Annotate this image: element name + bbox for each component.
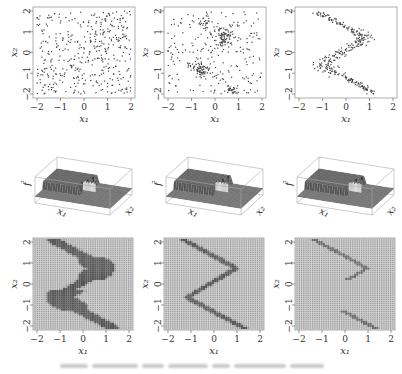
f-hat-axis-label: f̂ xyxy=(21,180,32,187)
x1-axis-label: x₁ xyxy=(187,205,200,219)
grid-heatmap-plot: −2−1012−2−1012x₁x₂ xyxy=(8,238,133,356)
scatter-panel-1: −2−1012−2−1012x₁x₂ xyxy=(0,0,140,125)
y-tick-label: 0 xyxy=(153,281,163,287)
y-tick-label: −1 xyxy=(22,298,32,311)
x-tick-label: −1 xyxy=(316,102,329,112)
surface-plot: x₁x₂f̂ xyxy=(152,157,267,219)
grid-panel-3: −2−1012−2−1012x₁x₂ xyxy=(262,232,402,360)
scatter-panel-3: −2−1012−2−1012x₁x₂ xyxy=(262,0,402,125)
y-tick-label: −2 xyxy=(284,87,294,100)
x-tick-label: 1 xyxy=(365,334,371,344)
y-tick-label: 2 xyxy=(22,239,32,245)
x1-axis-label: x₁ xyxy=(318,205,331,219)
y-tick-label: −2 xyxy=(153,87,163,100)
y-tick-label: 0 xyxy=(153,49,163,55)
y-axis-label: x₂ xyxy=(139,48,150,58)
y-tick-label: 1 xyxy=(22,29,32,35)
y-axis-label: x₂ xyxy=(8,48,19,58)
x-tick-label: 0 xyxy=(212,102,218,112)
y-tick-label: 2 xyxy=(153,239,163,245)
scatter-plot: −2−1012−2−1012x₁x₂ xyxy=(8,7,135,124)
y-tick-label: 0 xyxy=(22,281,32,287)
x2-axis-label: x₂ xyxy=(384,203,399,217)
x-tick-label: −1 xyxy=(54,102,67,112)
scatter-plot: −2−1012−2−1012x₁x₂ xyxy=(139,7,266,124)
y-tick-label: 2 xyxy=(22,8,32,14)
x-tick-label: 0 xyxy=(80,334,86,344)
x-tick-label: 1 xyxy=(234,334,240,344)
scatter-plot: −2−1012−2−1012x₁x₂ xyxy=(270,7,397,124)
f-hat-axis-label: f̂ xyxy=(152,180,163,187)
y-axis-label: x₂ xyxy=(270,279,281,289)
surface-panel-1: x₁x₂f̂ xyxy=(0,125,140,235)
y-tick-label: 2 xyxy=(284,8,294,14)
x-tick-label: −2 xyxy=(161,102,174,112)
x-axis-label: x₁ xyxy=(79,113,89,124)
y-tick-label: −1 xyxy=(153,67,163,80)
y-tick-label: 1 xyxy=(153,29,163,35)
surface-panel-3: x₁x₂f̂ xyxy=(262,125,402,235)
y-tick-label: −2 xyxy=(22,87,32,100)
x-tick-label: −2 xyxy=(161,334,174,344)
y-tick-label: 2 xyxy=(153,8,163,14)
y-tick-label: 0 xyxy=(284,49,294,55)
x-tick-label: 0 xyxy=(343,102,349,112)
x-tick-label: −1 xyxy=(184,334,197,344)
y-tick-label: −2 xyxy=(153,319,163,332)
y-tick-label: −2 xyxy=(22,319,32,332)
plot-frame xyxy=(164,7,266,98)
surface-plot: x₁x₂f̂ xyxy=(21,157,136,219)
surface-panel-2: x₁x₂f̂ xyxy=(131,125,271,235)
y-tick-label: 1 xyxy=(284,29,294,35)
y-axis-label: x₂ xyxy=(270,48,281,58)
surface-plot: x₁x₂f̂ xyxy=(283,157,398,219)
grid-panel-2: −2−1012−2−1012x₁x₂ xyxy=(131,232,271,360)
x-tick-label: −1 xyxy=(185,102,198,112)
x-axis-label: x₁ xyxy=(78,345,88,356)
x-tick-label: −2 xyxy=(292,334,305,344)
x-tick-label: −1 xyxy=(53,334,66,344)
x-tick-label: 1 xyxy=(103,334,109,344)
x-tick-label: 1 xyxy=(105,102,111,112)
x-axis-label: x₁ xyxy=(210,113,220,124)
x-tick-label: −1 xyxy=(315,334,328,344)
y-tick-label: −1 xyxy=(22,67,32,80)
grid-panel-1: −2−1012−2−1012x₁x₂ xyxy=(0,232,140,360)
x-tick-label: 0 xyxy=(81,102,87,112)
y-tick-label: 0 xyxy=(22,49,32,55)
plot-frame xyxy=(295,7,397,98)
x-tick-label: 1 xyxy=(236,102,242,112)
x-tick-label: −2 xyxy=(30,334,43,344)
y-tick-label: 1 xyxy=(22,260,32,266)
f-hat-axis-label: f̂ xyxy=(283,180,294,187)
x-tick-label: 0 xyxy=(342,334,348,344)
y-tick-label: −1 xyxy=(153,298,163,311)
y-tick-label: −2 xyxy=(284,319,294,332)
y-axis-label: x₂ xyxy=(8,279,19,289)
x-tick-label: 2 xyxy=(388,334,394,344)
grid-heatmap-plot: −2−1012−2−1012x₁x₂ xyxy=(270,238,395,356)
x-tick-label: 0 xyxy=(211,334,217,344)
x-tick-label: −2 xyxy=(30,102,43,112)
x-axis-label: x₁ xyxy=(340,345,350,356)
y-tick-label: −1 xyxy=(284,67,294,80)
x1-axis-label: x₁ xyxy=(56,205,69,219)
y-axis-label: x₂ xyxy=(139,279,150,289)
y-tick-label: 2 xyxy=(284,239,294,245)
grid-heatmap-plot: −2−1012−2−1012x₁x₂ xyxy=(139,238,264,356)
y-tick-label: 1 xyxy=(284,260,294,266)
x-axis-label: x₁ xyxy=(209,345,219,356)
y-tick-label: −1 xyxy=(284,298,294,311)
x-axis-label: x₁ xyxy=(341,113,351,124)
x-tick-label: 1 xyxy=(367,102,373,112)
y-tick-label: 0 xyxy=(284,281,294,287)
scatter-panel-2: −2−1012−2−1012x₁x₂ xyxy=(131,0,271,125)
y-tick-label: 1 xyxy=(153,260,163,266)
x-tick-label: −2 xyxy=(292,102,305,112)
figure-caption-blurred xyxy=(60,362,350,370)
x-tick-label: 2 xyxy=(390,102,396,112)
